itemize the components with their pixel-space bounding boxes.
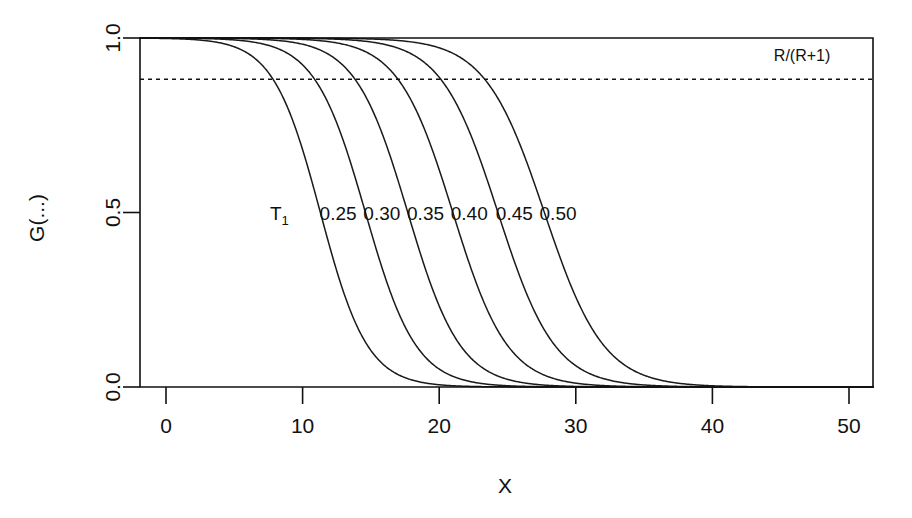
x-tick-label-1: 10 bbox=[291, 414, 314, 437]
curve-label-2: 0.35 bbox=[407, 203, 444, 224]
y-tick-label-0: 0.0 bbox=[101, 372, 124, 401]
x-tick-label-3: 30 bbox=[564, 414, 587, 437]
plot-background bbox=[0, 0, 912, 518]
chart-figure: 01020304050 0.00.51.0 0.250.300.350.400.… bbox=[0, 0, 912, 518]
x-tick-label-0: 0 bbox=[160, 414, 172, 437]
x-axis-title: X bbox=[498, 474, 512, 497]
series-group-label-subscript: 1 bbox=[282, 213, 289, 228]
y-tick-label-1: 0.5 bbox=[101, 198, 124, 227]
y-tick-label-2: 1.0 bbox=[101, 23, 124, 52]
reference-line-label: R/(R+1) bbox=[774, 47, 830, 64]
y-axis-title: G(...) bbox=[25, 194, 48, 242]
curve-label-3: 0.40 bbox=[451, 203, 488, 224]
curve-label-0: 0.25 bbox=[320, 203, 357, 224]
x-tick-label-2: 20 bbox=[428, 414, 451, 437]
curve-label-1: 0.30 bbox=[363, 203, 400, 224]
curve-label-4: 0.45 bbox=[496, 203, 533, 224]
plot-canvas: 01020304050 0.00.51.0 0.250.300.350.400.… bbox=[0, 0, 912, 518]
x-tick-label-5: 50 bbox=[837, 414, 860, 437]
curve-label-5: 0.50 bbox=[540, 203, 577, 224]
x-tick-label-4: 40 bbox=[701, 414, 724, 437]
